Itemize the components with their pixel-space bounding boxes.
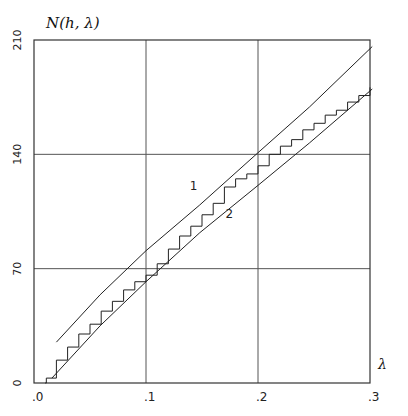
y-tick-label: 210 [11,30,24,51]
x-tick-label: .3 [368,390,379,404]
x-axis-label: λ [377,356,387,372]
y-tick-label: 140 [11,144,24,165]
chart: .0.1.2.3070140210N(h, λ)λ12 [0,0,408,416]
staircase-series [45,87,370,383]
labels: .0.1.2.3070140210N(h, λ)λ12 [11,14,387,404]
y-axis-label: N(h, λ) [45,14,100,32]
curve-label-2: 2 [226,207,234,221]
series [45,47,372,383]
axes [34,40,370,383]
y-tick-label: 0 [11,380,24,387]
curve-label-1: 1 [190,179,198,193]
x-tick-label: .2 [256,390,267,404]
x-tick-label: .0 [32,390,43,404]
grid [34,40,370,383]
y-tick-label: 70 [11,262,24,276]
series-1 [56,47,372,343]
series-2 [52,89,372,378]
plot-frame [34,40,370,383]
x-tick-label: .1 [144,390,155,404]
